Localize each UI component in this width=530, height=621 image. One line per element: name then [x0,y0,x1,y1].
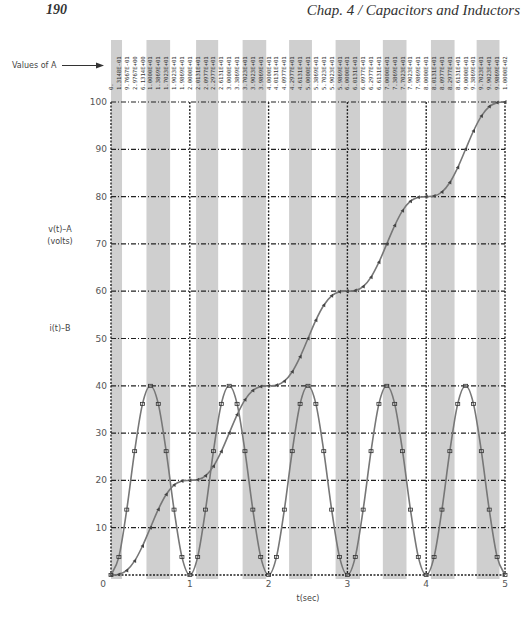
y-tick-label: 100 [90,97,107,107]
value-of-a-label: 9.3869E+01 [470,56,476,90]
value-of-a-label: 3.3869E+01 [234,56,240,90]
value-of-a-label: 2.0000E+01 [187,56,193,90]
y-tick-label: 50 [96,334,108,344]
value-of-a-label: 2.0131E+01 [195,56,201,90]
value-of-a-label: 8.2977E+01 [447,56,453,90]
value-of-a-label: 6.0977E+01 [360,56,366,90]
value-of-a-label: 1.0000E+01 [147,56,153,90]
value-of-a-label: 7.3869E+01 [392,56,398,90]
shaded-band [243,40,267,579]
value-of-a-label: 3.7023E+01 [242,56,248,90]
v-axis-units: (volts) [47,237,72,246]
value-of-a-label: 3.9023E+01 [250,56,256,90]
value-of-a-label: 3.9869E+01 [258,56,264,90]
value-of-a-label: 7.0000E+01 [384,56,390,90]
v-marker-icon [274,383,278,387]
value-of-a-label: 1.9023E+01 [171,56,177,90]
value-of-a-label: 4.0000E+01 [266,56,272,90]
v-axis-label: v(t)–A [48,225,72,234]
value-of-a-label: 1.3869E+01 [155,56,161,90]
value-of-a-label: 5.7023E+01 [321,56,327,90]
values-of-a-labels: 0.1.3148E-019.7667E-012.9767E+006.1314E+… [108,56,508,90]
value-of-a-label: 1.3148E-01 [116,56,122,90]
value-of-a-label: 5.9023E+01 [329,56,335,90]
y-tick-label: 70 [96,239,108,249]
value-of-a-label: 8.6131E+01 [455,56,461,90]
value-of-a-label: 9.0000E+01 [463,56,469,90]
chart: 102030405060708090100012345 0.1.3148E-01… [0,0,530,621]
value-of-a-label: 9.9023E+01 [486,56,492,90]
value-of-a-label: 1.0000E+02 [502,56,508,90]
x-tick-label: 4 [423,579,429,589]
value-of-a-label: 6.0131E+01 [352,56,358,90]
value-of-a-label: 6.1314E+00 [140,56,146,90]
x-tick-label: 5 [502,579,508,589]
shaded-band [383,40,407,579]
value-of-a-label: 8.0977E+01 [439,56,445,90]
value-of-a-label: 7.9869E+01 [415,56,421,90]
v-marker-icon [416,195,420,199]
value-of-a-label: 8.0131E+01 [431,56,437,90]
value-of-a-label: 3.0000E+01 [226,56,232,90]
value-of-a-label: 6.2977E+01 [368,56,374,90]
x-tick-label: 0 [100,579,106,589]
value-of-a-label: 6.0000E+01 [344,56,350,90]
value-of-a-label: 2.9767E+00 [132,56,138,90]
value-of-a-label: 6.6131E+01 [376,56,382,90]
value-of-a-label: 2.0977E+01 [203,56,209,90]
y-tick-label: 60 [96,286,108,296]
value-of-a-label: 9.7023E+01 [478,56,484,90]
value-of-a-label: 7.7023E+01 [400,56,406,90]
value-of-a-label: 9.7667E-01 [124,56,130,90]
value-of-a-label: 4.2977E+01 [289,56,295,90]
y-tick-label: 10 [96,523,108,533]
y-tick-label: 40 [96,381,108,391]
value-of-a-label: 8.0000E+01 [423,56,429,90]
value-of-a-label: 7.9023E+01 [407,56,413,90]
shaded-band [146,40,170,579]
x-axis-label: t(sec) [297,594,320,603]
shaded-band [111,40,122,579]
arrow-icon [96,63,104,69]
x-tick-label: 3 [345,579,351,589]
x-tick-label: 2 [266,579,272,589]
value-of-a-label: 0. [108,83,114,90]
value-of-a-label: 9.9869E+01 [494,56,500,90]
y-tick-label: 90 [96,144,108,154]
value-of-a-label: 1.9869E+01 [179,56,185,90]
value-of-a-label: 5.3869E+01 [313,56,319,90]
values-of-a-label: Values of A [12,61,57,70]
v-marker-icon [180,479,184,483]
y-tick-label: 20 [96,475,108,485]
value-of-a-label: 4.0977E+01 [281,56,287,90]
shaded-bands [111,40,499,579]
shaded-band [289,40,312,579]
shaded-band [431,40,455,579]
i-axis-label: i(t)–B [49,324,70,333]
value-of-a-label: 1.7023E+01 [163,56,169,90]
y-tick-label: 30 [96,428,108,438]
value-of-a-label: 4.6131E+01 [297,56,303,90]
value-of-a-label: 2.6131E+01 [218,56,224,90]
value-of-a-label: 4.0131E+01 [273,56,279,90]
x-tick-label: 1 [187,579,193,589]
y-tick-label: 80 [96,192,108,202]
value-of-a-label: 2.2977E+01 [210,56,216,90]
value-of-a-label: 5.0000E+01 [305,56,311,90]
value-of-a-label: 5.9869E+01 [337,56,343,90]
